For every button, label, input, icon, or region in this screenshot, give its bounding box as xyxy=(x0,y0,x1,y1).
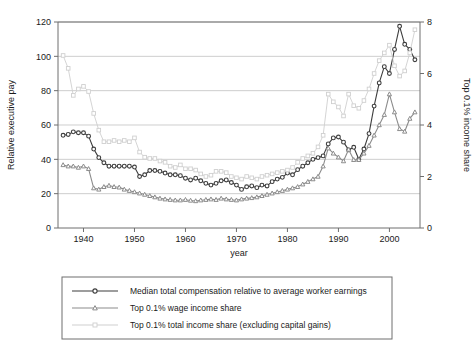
y-axis-title-left: Relative executive pay xyxy=(6,79,16,170)
marker-circle xyxy=(66,133,70,137)
legend-label: Top 0.1% wage income share xyxy=(130,303,242,313)
marker-circle xyxy=(342,140,346,144)
marker-square xyxy=(148,157,152,161)
marker-square xyxy=(77,87,81,91)
marker-circle xyxy=(393,48,397,52)
marker-square xyxy=(168,164,172,168)
marker-circle xyxy=(168,173,172,177)
marker-square xyxy=(321,134,325,138)
marker-circle xyxy=(352,145,356,149)
marker-square xyxy=(138,150,142,154)
marker-circle xyxy=(184,176,188,180)
marker-circle xyxy=(229,181,233,185)
marker-circle xyxy=(127,164,131,168)
marker-square xyxy=(311,152,315,156)
marker-square xyxy=(275,171,279,175)
marker-square xyxy=(133,136,137,140)
marker-square xyxy=(209,173,213,177)
marker-circle xyxy=(311,157,315,161)
legend-marker-circle xyxy=(93,289,97,293)
y-tick-label-right: 0 xyxy=(427,223,432,233)
marker-square xyxy=(107,140,111,144)
marker-circle xyxy=(306,161,310,165)
marker-circle xyxy=(377,81,381,85)
marker-circle xyxy=(112,164,116,168)
marker-square xyxy=(117,140,121,144)
marker-circle xyxy=(82,131,86,135)
x-tick-label: 1950 xyxy=(124,234,144,244)
marker-square xyxy=(393,64,397,68)
y-tick-label-left: 20 xyxy=(41,189,51,199)
marker-square xyxy=(326,92,330,96)
marker-circle xyxy=(260,183,264,187)
marker-circle xyxy=(173,173,177,177)
y-tick-label-left: 40 xyxy=(41,155,51,165)
marker-circle xyxy=(61,133,65,137)
marker-square xyxy=(189,167,193,171)
marker-circle xyxy=(270,180,274,184)
marker-square xyxy=(71,94,75,98)
marker-square xyxy=(204,175,208,179)
marker-square xyxy=(158,159,162,163)
marker-circle xyxy=(71,130,75,134)
marker-circle xyxy=(250,184,254,188)
marker-square xyxy=(260,175,264,179)
y-tick-label-right: 6 xyxy=(427,69,432,79)
marker-square xyxy=(342,114,346,118)
marker-circle xyxy=(291,173,295,177)
marker-circle xyxy=(296,168,300,172)
marker-square xyxy=(286,168,290,172)
marker-square xyxy=(87,90,91,94)
legend-marker-square xyxy=(93,323,97,327)
marker-square xyxy=(214,170,218,174)
marker-circle xyxy=(372,104,376,108)
marker-circle xyxy=(245,185,249,189)
marker-square xyxy=(82,85,86,89)
marker-square xyxy=(408,51,412,55)
marker-square xyxy=(250,176,254,180)
marker-square xyxy=(112,139,116,143)
marker-circle xyxy=(158,169,162,173)
marker-circle xyxy=(301,164,305,168)
marker-square xyxy=(219,170,223,174)
marker-circle xyxy=(194,176,198,180)
marker-square xyxy=(128,140,132,144)
marker-circle xyxy=(117,164,121,168)
marker-circle xyxy=(398,24,402,28)
marker-square xyxy=(372,72,376,76)
y-tick-label-left: 100 xyxy=(36,52,51,62)
marker-square xyxy=(122,139,126,143)
marker-square xyxy=(173,166,177,170)
marker-circle xyxy=(367,132,371,136)
marker-circle xyxy=(321,154,325,158)
marker-circle xyxy=(163,171,167,175)
marker-circle xyxy=(178,174,182,178)
marker-circle xyxy=(204,181,208,185)
marker-square xyxy=(153,157,157,161)
marker-circle xyxy=(337,135,341,139)
marker-square xyxy=(291,166,295,170)
x-tick-label: 2000 xyxy=(379,234,399,244)
marker-square xyxy=(332,100,336,104)
marker-circle xyxy=(92,147,96,151)
chart-figure: 0204060801001200246819401950196019701980… xyxy=(0,0,475,347)
marker-square xyxy=(61,54,65,58)
marker-circle xyxy=(209,183,213,187)
marker-square xyxy=(245,175,249,179)
marker-circle xyxy=(219,179,223,183)
marker-circle xyxy=(280,175,284,179)
marker-circle xyxy=(76,131,80,135)
marker-circle xyxy=(97,156,101,160)
marker-square xyxy=(265,173,269,177)
marker-circle xyxy=(265,184,269,188)
marker-square xyxy=(398,74,402,78)
y-tick-label-right: 2 xyxy=(427,172,432,182)
marker-circle xyxy=(102,161,106,165)
marker-square xyxy=(270,172,274,176)
marker-square xyxy=(337,105,341,109)
marker-square xyxy=(352,104,356,108)
y-tick-label-left: 0 xyxy=(46,223,51,233)
y-tick-label-left: 80 xyxy=(41,86,51,96)
marker-square xyxy=(92,112,96,116)
marker-square xyxy=(377,59,381,63)
